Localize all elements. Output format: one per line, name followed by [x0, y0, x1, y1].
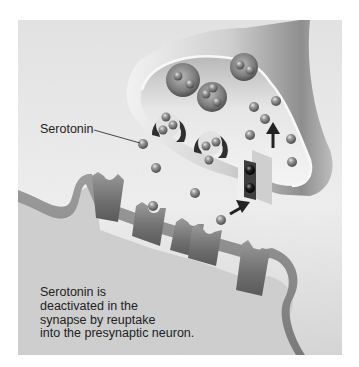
caption-line-2: deactivated in the — [40, 300, 240, 314]
figure-caption: Serotonin is deactivated in the synapse … — [40, 286, 240, 341]
vesicle-2 — [197, 82, 227, 112]
caption-line-3: synapse by reuptake — [40, 314, 240, 328]
vesicle-1 — [166, 63, 200, 97]
vesicle-3 — [230, 53, 258, 81]
caption-line-4: into the presynaptic neuron. — [40, 327, 240, 341]
serotonin-label: Serotonin — [40, 122, 94, 136]
caption-line-1: Serotonin is — [40, 286, 240, 300]
